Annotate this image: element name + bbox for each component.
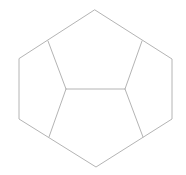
hexagon-dissection-diagram bbox=[0, 0, 186, 175]
diagram-canvas bbox=[0, 0, 186, 175]
top-pentagon bbox=[48, 10, 142, 89]
